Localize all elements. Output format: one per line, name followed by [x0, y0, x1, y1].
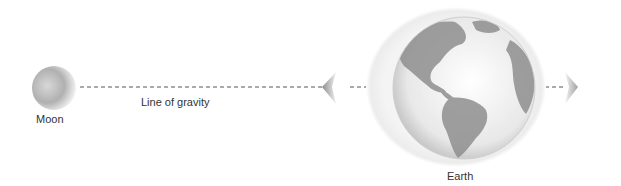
tidal-bulge-far: [565, 72, 578, 104]
earth-label: Earth: [447, 170, 473, 182]
tidal-bulge-near: [322, 72, 336, 104]
moon: [32, 66, 76, 110]
moon-label: Moon: [36, 113, 64, 125]
line-of-gravity-label: Line of gravity: [141, 96, 209, 108]
earth-globe: [393, 17, 535, 159]
diagram-canvas: [0, 0, 621, 186]
